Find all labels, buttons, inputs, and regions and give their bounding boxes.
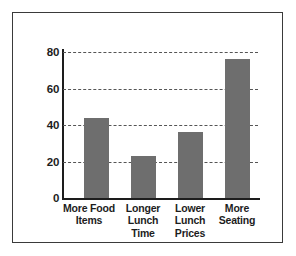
bar-more-food-items: [84, 118, 109, 198]
x-tick-label-more-seating: More Seating: [205, 202, 269, 227]
y-tick-label-40: 40: [25, 119, 59, 131]
bar-longer-lunch-time: [131, 156, 156, 198]
y-tick-label-0: 0: [25, 192, 59, 204]
y-tick-label-80: 80: [25, 46, 59, 58]
plot-area: [63, 52, 258, 198]
y-tick-label-60: 60: [25, 83, 59, 95]
x-axis-line: [62, 198, 260, 200]
bar-lower-lunch-prices: [178, 132, 203, 198]
x-tick-line-3: Prices: [158, 227, 222, 239]
x-tick-line-2: Seating: [205, 214, 269, 226]
bar-more-seating: [225, 59, 250, 198]
gridline-80: [63, 52, 258, 53]
chart-frame-border: 80 60 40 20 0 More Food Items: [12, 12, 283, 243]
bar-chart-figure: 80 60 40 20 0 More Food Items: [0, 0, 296, 256]
x-tick-line-1: More: [205, 202, 269, 214]
y-tick-label-20: 20: [25, 156, 59, 168]
y-axis-tick-labels: 80 60 40 20 0: [21, 52, 59, 198]
x-axis-tick-labels: More Food Items Longer Lunch Time Lower …: [63, 202, 258, 252]
